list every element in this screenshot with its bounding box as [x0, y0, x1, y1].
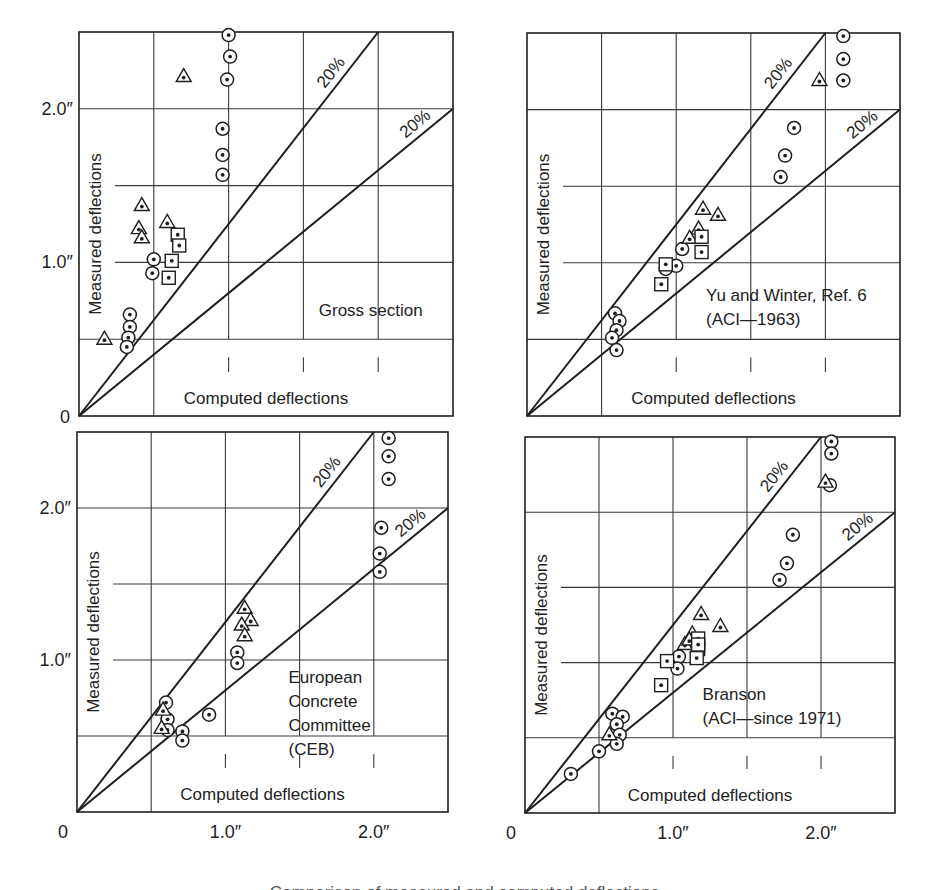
data-point	[713, 619, 728, 632]
marker-center-dot-icon	[687, 639, 691, 643]
x-axis-title: Computed deflections	[180, 785, 344, 804]
marker-center-dot-icon	[378, 570, 382, 574]
panel-method-label: EuropeanConcreteCommittee(CEB)	[288, 668, 370, 759]
marker-center-dot-icon	[676, 667, 680, 671]
marker-center-dot-icon	[249, 620, 253, 624]
data-point	[661, 655, 674, 668]
marker-center-dot-icon	[841, 34, 845, 38]
figure-caption: Comparison of measured and computed defl…	[0, 878, 929, 890]
plot-frame	[525, 437, 895, 813]
marker-center-dot-icon	[680, 247, 684, 251]
marker-center-dot-icon	[170, 259, 174, 263]
triangle-marker-icon	[713, 619, 728, 632]
marker-center-dot-icon	[177, 244, 181, 248]
marker-center-dot-icon	[674, 264, 678, 268]
x-axis-title: Computed deflections	[631, 389, 795, 408]
marker-center-dot-icon	[700, 250, 704, 254]
marker-center-dot-icon	[778, 578, 782, 582]
data-point	[780, 557, 793, 570]
triangle-marker-icon	[176, 69, 191, 82]
data-point	[696, 201, 711, 214]
marker-center-dot-icon	[615, 742, 619, 746]
data-point	[373, 565, 386, 578]
marker-center-dot-icon	[701, 208, 705, 212]
data-point	[695, 230, 708, 243]
y-tick-label: 1.0″	[42, 252, 74, 272]
data-point	[237, 600, 252, 613]
x-axis-title: Computed deflections	[184, 389, 348, 408]
marker-center-dot-icon	[699, 614, 703, 618]
x-tick-label: 1.0″	[210, 822, 242, 842]
marker-center-dot-icon	[785, 561, 789, 565]
data-point	[203, 708, 216, 721]
marker-center-dot-icon	[227, 33, 231, 37]
panel-method-label-line: (ACI—since 1971)	[703, 709, 842, 728]
reference-line-label: 20%	[838, 508, 876, 544]
data-point	[120, 340, 133, 353]
marker-center-dot-icon	[610, 336, 614, 340]
panel-method-label-line: (CEB)	[288, 740, 334, 759]
data-point	[160, 214, 175, 227]
marker-center-dot-icon	[378, 552, 382, 556]
data-point	[692, 638, 705, 651]
data-point	[375, 521, 388, 534]
marker-center-dot-icon	[240, 624, 244, 628]
marker-center-dot-icon	[716, 214, 720, 218]
triangle-marker-icon	[160, 214, 175, 227]
data-point	[231, 657, 244, 670]
marker-center-dot-icon	[180, 739, 184, 743]
data-point	[176, 69, 191, 82]
data-point	[162, 271, 175, 284]
marker-center-dot-icon	[841, 57, 845, 61]
marker-center-dot-icon	[841, 79, 845, 83]
origin-label: 0	[60, 407, 70, 427]
marker-center-dot-icon	[621, 715, 625, 719]
marker-center-dot-icon	[791, 533, 795, 537]
x-tick-label: 1.0″	[657, 823, 689, 843]
marker-center-dot-icon	[618, 733, 622, 737]
data-point	[382, 473, 395, 486]
data-point	[382, 450, 395, 463]
data-point	[131, 221, 146, 234]
marker-center-dot-icon	[695, 656, 699, 660]
data-point	[825, 447, 838, 460]
marker-center-dot-icon	[166, 717, 170, 721]
data-point	[373, 547, 386, 560]
data-point	[165, 254, 178, 267]
marker-center-dot-icon	[688, 237, 692, 241]
data-point	[837, 53, 850, 66]
marker-center-dot-icon	[783, 154, 787, 158]
data-point	[176, 734, 189, 747]
data-point	[655, 679, 668, 692]
data-point	[695, 246, 708, 259]
marker-center-dot-icon	[610, 712, 614, 716]
panel-method-label-line: Committee	[288, 716, 370, 735]
data-point	[593, 745, 606, 758]
marker-center-dot-icon	[167, 276, 171, 280]
marker-center-dot-icon	[221, 153, 225, 157]
chart-panel-2: 20%20%Yu and Winter, Ref. 6(ACI—1963)Com…	[527, 30, 900, 416]
triangle-marker-icon	[131, 221, 146, 234]
data-point	[173, 239, 186, 252]
panel-method-label-line: Concrete	[288, 692, 357, 711]
marker-center-dot-icon	[128, 325, 132, 329]
y-axis-title: Measured deflections	[86, 153, 105, 315]
marker-center-dot-icon	[659, 282, 663, 286]
marker-center-dot-icon	[137, 228, 141, 232]
marker-center-dot-icon	[176, 233, 180, 237]
marker-center-dot-icon	[818, 80, 822, 84]
chart-panel-1: 20%20%Gross sectionComputed deflectionsM…	[42, 29, 453, 427]
reference-line-label: 20%	[760, 54, 796, 93]
marker-center-dot-icon	[718, 626, 722, 630]
data-point	[694, 606, 709, 619]
marker-center-dot-icon	[779, 175, 783, 179]
data-point	[147, 253, 160, 266]
x-tick-label: 2.0″	[358, 822, 390, 842]
data-point	[774, 171, 787, 184]
marker-center-dot-icon	[221, 127, 225, 131]
x-tick-label: 2.0″	[805, 823, 837, 843]
panel-method-label-line: Gross section	[319, 301, 423, 320]
data-point	[773, 573, 786, 586]
plot-frame	[527, 33, 900, 416]
data-point	[382, 432, 395, 445]
